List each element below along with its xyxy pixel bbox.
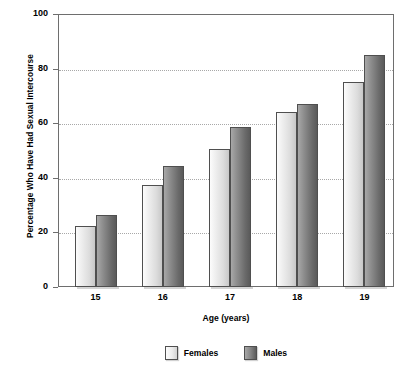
bar-group	[276, 14, 318, 287]
bar-shadow	[165, 287, 186, 289]
bar-females-18	[276, 112, 297, 287]
legend-swatch-males	[244, 346, 257, 360]
x-tick-label: 17	[200, 292, 260, 302]
bar-males-15	[96, 215, 117, 287]
y-tick-label: 0	[14, 282, 48, 291]
bar-shadow	[98, 287, 119, 289]
bar-chart: Percentage Who Have Had Sexual Intercour…	[0, 0, 403, 377]
y-tick-label: 60	[14, 118, 48, 127]
bar-males-17	[230, 127, 251, 287]
x-tick-label: 15	[66, 292, 126, 302]
bar-females-19	[343, 82, 364, 287]
legend-swatch-females	[165, 346, 178, 360]
bar-shadow	[144, 287, 165, 289]
legend-label-males: Males	[263, 348, 287, 358]
bar-males-16	[163, 166, 184, 287]
bars-layer	[58, 14, 394, 287]
bar-shadow	[77, 287, 98, 289]
chart-legend: FemalesMales	[58, 346, 394, 360]
x-tick-label: 18	[267, 292, 327, 302]
bar-shadow	[366, 287, 387, 289]
bar-males-18	[297, 104, 318, 287]
bar-group	[209, 14, 251, 287]
y-tick-label: 100	[14, 9, 48, 18]
y-tick-label: 20	[14, 227, 48, 236]
bar-shadow	[299, 287, 320, 289]
bar-group	[75, 14, 117, 287]
legend-label-females: Females	[184, 348, 218, 358]
x-tick-label: 19	[334, 292, 394, 302]
bar-shadow	[345, 287, 366, 289]
bar-males-19	[364, 55, 385, 287]
y-tick-label: 40	[14, 173, 48, 182]
bar-shadow	[232, 287, 253, 289]
bar-females-17	[209, 149, 230, 287]
legend-item-males[interactable]: Males	[244, 346, 287, 360]
bar-group	[142, 14, 184, 287]
y-axis-title: Percentage Who Have Had Sexual Intercour…	[25, 15, 35, 277]
y-tick-label: 80	[14, 64, 48, 73]
bar-females-15	[75, 226, 96, 287]
x-axis-title: Age (years)	[58, 313, 394, 323]
y-tick-mark	[53, 287, 58, 288]
bar-shadow	[278, 287, 299, 289]
bar-females-16	[142, 185, 163, 287]
bar-group	[343, 14, 385, 287]
bar-shadow	[211, 287, 232, 289]
legend-item-females[interactable]: Females	[165, 346, 218, 360]
x-tick-label: 16	[133, 292, 193, 302]
